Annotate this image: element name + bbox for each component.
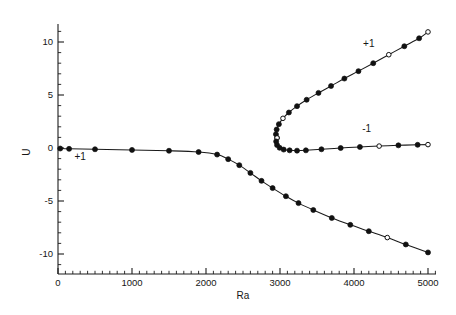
- data-point-filled: [58, 146, 63, 151]
- x-tick-label: 4000: [343, 277, 364, 288]
- x-tick-label: 0: [55, 277, 60, 288]
- curve-conduction-branch: [60, 149, 428, 253]
- data-point-filled: [286, 110, 291, 115]
- data-point-filled: [338, 146, 343, 151]
- data-point-filled: [311, 208, 316, 213]
- data-point-filled: [248, 170, 253, 175]
- x-tick-label: 3000: [269, 277, 290, 288]
- data-point-filled: [348, 222, 353, 227]
- data-point-filled: [342, 76, 347, 81]
- data-point-filled: [226, 157, 231, 162]
- x-tick-label: 1000: [121, 277, 142, 288]
- data-point-filled: [417, 36, 422, 41]
- branch-label-plus-one-left: +1: [74, 151, 86, 162]
- data-point-filled: [167, 148, 172, 153]
- data-point-filled: [281, 147, 286, 152]
- data-point-filled: [296, 201, 301, 206]
- data-point-filled: [396, 143, 401, 148]
- data-point-filled: [295, 148, 300, 153]
- data-point-open: [377, 144, 382, 149]
- branch-label-plus-one-upper: +1: [363, 38, 375, 49]
- y-tick-label: 5: [48, 89, 53, 100]
- data-point-filled: [371, 61, 376, 66]
- y-tick-label: 10: [42, 36, 53, 47]
- x-axis-tick-labels: 010002000300040005000: [55, 277, 438, 288]
- data-point-filled: [329, 83, 334, 88]
- bifurcation-chart: 1050-5-10 010002000300040005000 +1+1-1 R…: [0, 0, 456, 315]
- data-point-filled: [259, 178, 264, 183]
- data-point-filled: [283, 194, 288, 199]
- data-point-filled: [93, 147, 98, 152]
- axes-group: [58, 24, 436, 274]
- data-point-filled: [270, 186, 275, 191]
- data-point-filled: [196, 150, 201, 155]
- data-point-filled: [304, 97, 309, 102]
- branch-label-minus-one-lower: -1: [362, 123, 371, 134]
- data-point-filled: [357, 144, 362, 149]
- x-axis-title: Ra: [237, 290, 250, 301]
- data-point-filled: [295, 104, 300, 109]
- data-point-filled: [319, 147, 324, 152]
- y-axis-title: U: [21, 148, 32, 155]
- data-point-open: [426, 30, 431, 35]
- data-point-filled: [215, 152, 220, 157]
- data-point-filled: [303, 148, 308, 153]
- data-point-filled: [274, 127, 279, 132]
- data-point-filled: [403, 242, 408, 247]
- data-markers: [58, 30, 431, 255]
- branch-annotations: +1+1-1: [74, 38, 374, 162]
- y-axis-tick-labels: 1050-5-10: [39, 36, 53, 259]
- y-tick-label: -10: [39, 248, 53, 259]
- y-tick-label: -5: [45, 195, 53, 206]
- data-point-filled: [329, 215, 334, 220]
- data-point-open: [426, 142, 431, 147]
- data-point-filled: [287, 148, 292, 153]
- x-tick-label: 2000: [195, 277, 216, 288]
- figure-container: 1050-5-10 010002000300040005000 +1+1-1 R…: [0, 0, 456, 315]
- data-point-open: [386, 52, 391, 57]
- data-point-filled: [316, 90, 321, 95]
- data-point-filled: [426, 250, 431, 255]
- data-point-filled: [276, 122, 281, 127]
- x-tick-label: 5000: [417, 277, 438, 288]
- data-point-filled: [130, 147, 135, 152]
- data-point-filled: [415, 142, 420, 147]
- data-point-filled: [237, 163, 242, 168]
- data-point-filled: [402, 44, 407, 49]
- y-tick-label: 0: [48, 142, 53, 153]
- data-point-filled: [366, 229, 371, 234]
- data-point-filled: [356, 69, 361, 74]
- data-point-open: [281, 116, 286, 121]
- data-point-filled: [67, 146, 72, 151]
- data-point-open: [385, 235, 390, 240]
- x-axis-ticks: [58, 268, 435, 274]
